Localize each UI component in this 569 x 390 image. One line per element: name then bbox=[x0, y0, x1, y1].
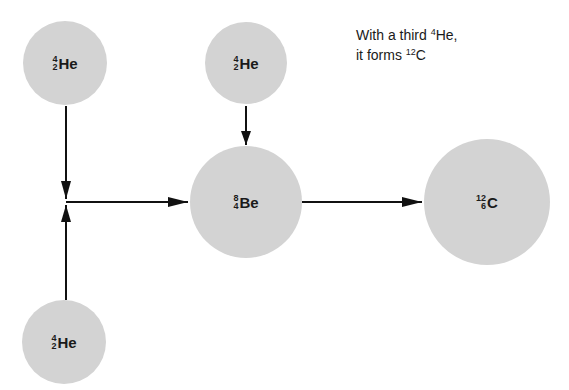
nucleus-he-bottom-left: 42 He bbox=[22, 300, 106, 384]
atomic-number: 2 bbox=[52, 63, 57, 71]
element-symbol: He bbox=[239, 55, 258, 72]
element-symbol: He bbox=[58, 55, 77, 72]
element-symbol: C bbox=[487, 194, 498, 211]
nucleus-he-top-left: 42 He bbox=[23, 21, 107, 105]
atomic-number: 6 bbox=[481, 202, 486, 210]
atomic-number: 4 bbox=[233, 202, 238, 210]
atomic-number: 2 bbox=[51, 342, 56, 350]
nuclide-label: 42 He bbox=[233, 55, 258, 72]
element-symbol: Be bbox=[239, 194, 258, 211]
arrowhead-icon bbox=[61, 181, 71, 199]
caption-line-1: With a third 4He, bbox=[356, 24, 458, 44]
nucleus-he-top-middle: 42 He bbox=[205, 22, 287, 104]
nucleus-be: 84 Be bbox=[190, 146, 302, 258]
arrowhead-icon bbox=[402, 197, 422, 207]
arrowhead-icon bbox=[168, 197, 188, 207]
arrowhead-icon bbox=[241, 131, 251, 145]
atomic-number: 2 bbox=[233, 63, 238, 71]
nuclide-label: 84 Be bbox=[233, 194, 258, 211]
nuclide-label: 42 He bbox=[52, 55, 77, 72]
element-symbol: He bbox=[57, 334, 76, 351]
nucleus-c: 126 C bbox=[424, 139, 550, 265]
caption-line-2: it forms 12C bbox=[356, 44, 458, 64]
arrowhead-icon bbox=[61, 205, 71, 222]
caption-text: With a third 4He, it forms 12C bbox=[356, 24, 458, 64]
nuclide-label: 42 He bbox=[51, 334, 76, 351]
nuclide-label: 126 C bbox=[476, 194, 498, 211]
